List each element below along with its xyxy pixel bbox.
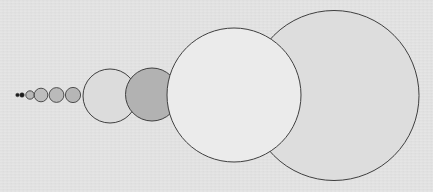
dot-1 xyxy=(16,93,20,97)
circle-9 xyxy=(167,28,301,162)
circle-3 xyxy=(26,91,34,99)
circle-4 xyxy=(34,88,48,102)
diagram-canvas xyxy=(0,0,433,192)
dot-2 xyxy=(20,93,25,98)
circle-6 xyxy=(65,87,80,102)
circle-size-diagram xyxy=(0,0,433,192)
circle-5 xyxy=(49,88,64,103)
